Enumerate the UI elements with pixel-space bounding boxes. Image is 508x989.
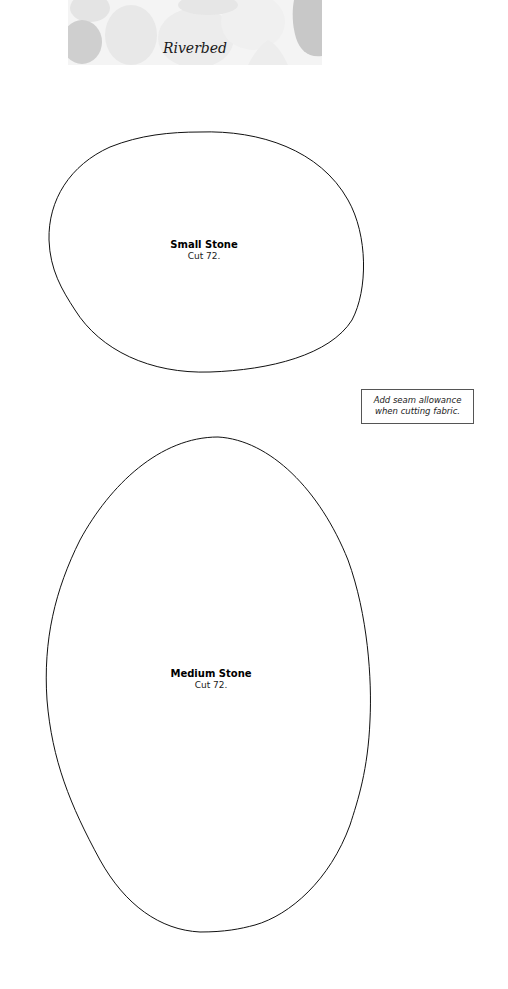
note-line-1: Add seam allowance [362, 395, 473, 406]
small-stone-label: Small Stone Cut 72. [124, 239, 284, 262]
small-stone-name: Small Stone [124, 239, 284, 251]
medium-stone-cut-count: Cut 72. [131, 680, 291, 691]
seam-allowance-note: Add seam allowance when cutting fabric. [361, 389, 474, 424]
medium-stone-name: Medium Stone [131, 668, 291, 680]
small-stone-cut-count: Cut 72. [124, 251, 284, 262]
note-line-2: when cutting fabric. [362, 406, 473, 417]
template-outlines [0, 0, 508, 989]
medium-stone-label: Medium Stone Cut 72. [131, 668, 291, 691]
